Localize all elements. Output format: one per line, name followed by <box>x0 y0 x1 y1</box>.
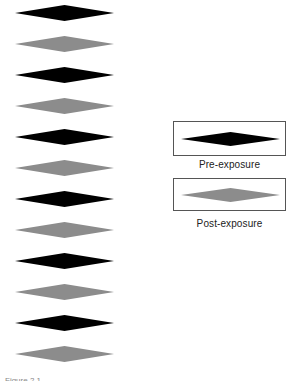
diamond-icon <box>15 191 114 207</box>
stimulus-pre <box>15 315 114 331</box>
legend-swatch-post <box>173 178 286 211</box>
stimulus-pre <box>15 253 114 269</box>
stimulus-pre <box>15 191 114 207</box>
stimulus-pre <box>15 5 114 21</box>
stimulus-post <box>15 160 114 176</box>
stimulus-post <box>15 222 114 238</box>
legend-swatch-pre <box>173 121 286 156</box>
diamond-icon <box>15 222 114 238</box>
legend-label-pre: Pre-exposure <box>173 159 286 170</box>
diamond-icon <box>15 315 114 331</box>
diamond-icon <box>15 5 114 21</box>
stimulus-post <box>15 284 114 300</box>
diamond-icon <box>15 67 114 83</box>
diamond-icon <box>15 160 114 176</box>
stimulus-pre <box>15 129 114 145</box>
figure-caption: Figure 2.1 <box>5 374 41 381</box>
legend-label-post: Post-exposure <box>173 218 286 229</box>
diamond-icon <box>15 253 114 269</box>
diamond-icon <box>181 132 280 146</box>
stimulus-post <box>15 98 114 114</box>
diamond-icon <box>15 346 114 362</box>
diamond-icon <box>181 188 280 202</box>
diamond-icon <box>15 129 114 145</box>
stimulus-post <box>15 36 114 52</box>
stimulus-post <box>15 346 114 362</box>
diamond-icon <box>15 36 114 52</box>
diamond-icon <box>15 284 114 300</box>
diamond-icon <box>15 98 114 114</box>
stimulus-pre <box>15 67 114 83</box>
